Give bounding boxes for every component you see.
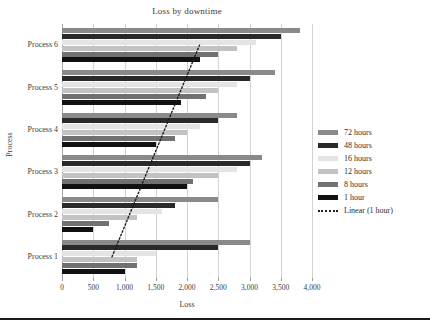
x-tick-mark [125, 278, 126, 281]
x-tick-mark [250, 278, 251, 281]
y-axis-label: Process [5, 110, 14, 180]
chart-figure: Loss by downtime 05001,0001,5002,0002,50… [0, 0, 430, 328]
legend-item-label: 16 hours [344, 154, 372, 163]
bottom-rule [0, 318, 430, 320]
legend-item[interactable]: 16 hours [318, 152, 428, 165]
y-tick-label: Process 2 [0, 210, 58, 219]
legend-item[interactable]: 1 hour [318, 191, 428, 204]
legend-item[interactable]: 8 hours [318, 178, 428, 191]
legend-item-label: 1 hour [344, 193, 365, 202]
trendline-linear-1-hour [62, 24, 312, 278]
legend-item[interactable]: 48 hours [318, 139, 428, 152]
legend-swatch-icon [318, 156, 338, 161]
x-axis-label: Loss [62, 300, 312, 309]
legend-swatch-icon [318, 182, 338, 187]
legend-item-label: 48 hours [344, 141, 372, 150]
chart-title: Loss by downtime [62, 6, 312, 16]
plot-area [62, 24, 312, 278]
gridline [312, 24, 313, 278]
legend-item-label: 8 hours [344, 180, 368, 189]
x-tick-mark [187, 278, 188, 281]
legend-swatch-icon [318, 195, 338, 200]
legend-item-label: 72 hours [344, 128, 372, 137]
x-tick-mark [62, 278, 63, 281]
legend-swatch-icon [318, 130, 338, 135]
chart-legend: 72 hours48 hours16 hours12 hours8 hours1… [318, 126, 428, 217]
x-tick-mark [281, 278, 282, 281]
legend-swatch-icon [318, 169, 338, 174]
legend-swatch-icon [318, 143, 338, 148]
x-tick-label: 4,000 [292, 283, 332, 292]
legend-item[interactable]: 72 hours [318, 126, 428, 139]
x-tick-mark [156, 278, 157, 281]
legend-item[interactable]: Linear (1 hour) [318, 204, 428, 217]
x-tick-mark [218, 278, 219, 281]
x-tick-mark [312, 278, 313, 281]
y-tick-label: Process 6 [0, 40, 58, 49]
legend-item[interactable]: 12 hours [318, 165, 428, 178]
legend-item-label: Linear (1 hour) [344, 206, 393, 215]
dotted-line-icon [318, 210, 338, 212]
x-tick-mark [93, 278, 94, 281]
legend-item-label: 12 hours [344, 167, 372, 176]
y-tick-label: Process 1 [0, 252, 58, 261]
y-tick-label: Process 5 [0, 83, 58, 92]
